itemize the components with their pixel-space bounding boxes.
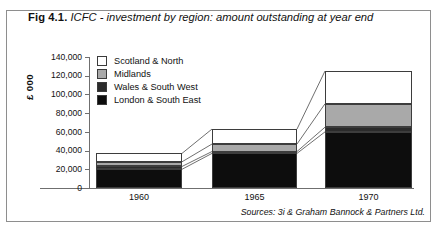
bar-segment xyxy=(325,71,412,104)
legend-item: Scotland & North xyxy=(97,54,201,67)
y-tick-label: 60,000 xyxy=(30,128,82,137)
legend-item: London & South East xyxy=(97,94,201,107)
y-tick-label: 100,000 xyxy=(30,90,82,99)
legend-swatch-icon xyxy=(97,95,107,105)
legend-label: London & South East xyxy=(114,95,201,105)
legend-swatch-icon xyxy=(97,56,107,66)
chart-legend: Scotland & NorthMidlandsWales & South We… xyxy=(97,54,201,107)
bar-segment xyxy=(96,162,182,167)
bar-segment xyxy=(96,166,182,169)
source-note: Sources: 3i & Graham Bannock & Partners … xyxy=(241,207,425,217)
y-tick-mark xyxy=(85,94,89,95)
legend-item: Midlands xyxy=(97,67,201,80)
y-tick-label: 80,000 xyxy=(30,109,82,118)
bar-segment xyxy=(325,127,412,132)
legend-swatch-icon xyxy=(97,82,107,92)
x-tick-label: 1960 xyxy=(94,192,184,202)
y-tick-mark xyxy=(85,132,89,133)
bar-segment xyxy=(212,152,297,154)
y-tick-mark xyxy=(85,169,89,170)
y-tick-mark xyxy=(85,57,89,58)
y-tick-mark xyxy=(85,76,89,77)
bar-segment xyxy=(212,129,297,144)
y-tick-label: 120,000 xyxy=(30,71,82,80)
y-tick-mark xyxy=(85,188,89,189)
bar-segment xyxy=(325,132,412,188)
y-axis-line xyxy=(89,57,90,188)
bar-segment xyxy=(96,169,182,188)
y-tick-mark xyxy=(85,151,89,152)
legend-swatch-icon xyxy=(97,69,107,79)
legend-label: Wales & South West xyxy=(114,82,198,92)
bar-segment xyxy=(212,153,297,188)
x-tick-label: 1970 xyxy=(324,192,414,202)
y-tick-label: 140,000 xyxy=(30,53,82,62)
legend-label: Midlands xyxy=(114,69,151,79)
bar-segment xyxy=(325,104,412,127)
y-tick-label: 40,000 xyxy=(30,146,82,155)
x-axis-line xyxy=(40,188,414,189)
legend-item: Wales & South West xyxy=(97,80,201,93)
bar-segment xyxy=(96,153,182,161)
y-tick-label: 20,000 xyxy=(30,165,82,174)
y-tick-label: 0 xyxy=(30,184,82,193)
y-tick-mark xyxy=(85,113,89,114)
x-tick-label: 1965 xyxy=(210,192,300,202)
bar-segment xyxy=(212,144,297,151)
legend-label: Scotland & North xyxy=(114,56,183,66)
